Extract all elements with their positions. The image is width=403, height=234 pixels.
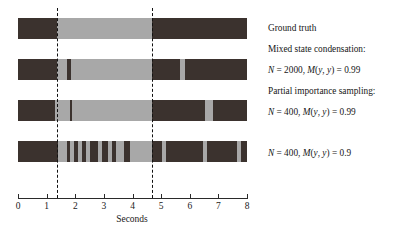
segment-dark <box>241 141 247 162</box>
annotation-ground-truth: Ground truth <box>268 23 316 34</box>
segment-light <box>72 100 152 121</box>
timeline-figure: 012345678 Seconds Ground truth Mixed sta… <box>0 0 403 234</box>
segment-dark <box>18 18 57 39</box>
axis-tick-7 <box>218 194 219 199</box>
segment-dark <box>90 141 98 162</box>
axis-tick-3 <box>104 194 105 199</box>
bar-row-ground-truth <box>18 18 247 39</box>
segment-light <box>130 141 152 162</box>
segment-dark <box>207 141 237 162</box>
plot-area: 012345678 Seconds <box>0 0 265 234</box>
reference-guide-1 <box>57 8 58 198</box>
bar-track <box>18 141 247 162</box>
annotation-partial-importance-sampling-params-09: N = 400, M(y, y) = 0.9 <box>268 148 351 159</box>
annotation-mixed-state-condensation-params: N = 2000, M(y, y) = 0.99 <box>268 65 360 76</box>
axis-tick-label-5: 5 <box>151 201 171 211</box>
axis-tick-6 <box>190 194 191 199</box>
axis-tick-5 <box>161 194 162 199</box>
segment-dark <box>18 100 55 121</box>
axis-tick-label-8: 8 <box>237 201 257 211</box>
axis-tick-label-4: 4 <box>123 201 143 211</box>
segment-light <box>57 18 152 39</box>
axis-tick-1 <box>47 194 48 199</box>
reference-guide-2 <box>152 8 153 198</box>
axis-tick-label-7: 7 <box>208 201 228 211</box>
segment-light <box>205 100 213 121</box>
segment-dark <box>152 59 180 80</box>
segment-light <box>57 59 67 80</box>
bar-track <box>18 59 247 80</box>
segment-light <box>116 141 124 162</box>
segment-light <box>71 59 152 80</box>
axis-tick-label-6: 6 <box>180 201 200 211</box>
segment-dark <box>152 141 162 162</box>
axis-tick-label-3: 3 <box>94 201 114 211</box>
axis-tick-label-0: 0 <box>8 201 28 211</box>
annotation-partial-importance-sampling-params-099: N = 400, M(y, y) = 0.99 <box>268 107 356 118</box>
segment-dark <box>213 100 247 121</box>
segment-dark <box>152 18 247 39</box>
axis-tick-8 <box>247 194 248 199</box>
annotation-partial-importance-sampling-title: Partial importance sampling: <box>268 86 375 97</box>
segment-dark <box>18 141 58 162</box>
axis-tick-label-1: 1 <box>37 201 57 211</box>
axis-tick-2 <box>75 194 76 199</box>
bar-track <box>18 18 247 39</box>
bar-row-mixed-state-condensation <box>18 59 247 80</box>
axis-tick-label-2: 2 <box>65 201 85 211</box>
annotation-mixed-state-condensation-title: Mixed state condensation: <box>268 44 366 55</box>
bar-row-partial-importance-sampling-09 <box>18 141 247 162</box>
segment-light <box>58 141 67 162</box>
segment-dark <box>152 100 205 121</box>
x-axis-title: Seconds <box>72 214 192 224</box>
bar-row-partial-importance-sampling-099 <box>18 100 247 121</box>
segment-dark <box>18 59 57 80</box>
axis-tick-4 <box>133 194 134 199</box>
bar-track <box>18 100 247 121</box>
annotations-panel: Ground truth Mixed state condensation: N… <box>268 0 403 234</box>
segment-dark <box>185 59 247 80</box>
axis-tick-0 <box>18 194 19 199</box>
segment-dark <box>166 141 203 162</box>
